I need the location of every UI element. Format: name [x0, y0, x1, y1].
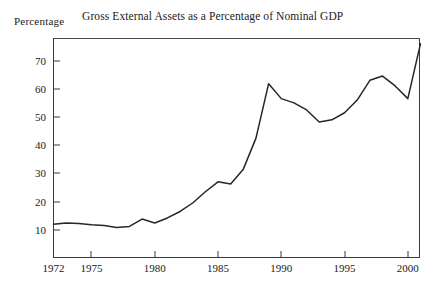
plot-canvas: [0, 0, 446, 285]
data-series-line: [54, 44, 421, 228]
chart-figure: Percentage Gross External Assets as a Pe…: [0, 0, 446, 285]
